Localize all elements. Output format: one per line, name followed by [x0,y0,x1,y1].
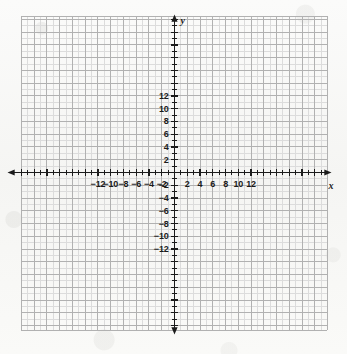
y-tick-label: 4 [164,142,169,151]
x-tick-label: 8 [223,180,228,189]
y-axis-label: y [181,16,185,26]
x-axis-label: x [329,181,334,191]
y-tick-label: −8 [159,219,169,228]
y-tick-label: −10 [154,232,169,241]
x-tick-label: −4 [144,180,154,189]
coordinate-plane-svg [0,0,347,354]
x-tick-label: −10 [103,180,118,189]
y-tick-label: −2 [159,181,169,190]
x-tick-label: 12 [246,180,256,189]
y-tick-label: −6 [159,206,169,215]
y-tick-label: 8 [164,117,169,126]
x-tick-label: −8 [119,180,129,189]
y-tick-label: −4 [159,194,169,203]
x-tick-label: −6 [131,180,141,189]
coordinate-plane-figure: y x −12−10−8−6−4−224681012 12108642−2−4−… [0,0,347,354]
y-tick-label: −12 [154,245,169,254]
x-tick-label: 2 [185,180,190,189]
x-tick-label: 10 [233,180,243,189]
y-tick-label: 10 [159,104,169,113]
y-tick-label: 12 [159,91,169,100]
x-tick-label: 4 [198,180,203,189]
y-tick-label: 2 [164,155,169,164]
y-tick-label: 6 [164,130,169,139]
x-tick-label: 6 [210,180,215,189]
